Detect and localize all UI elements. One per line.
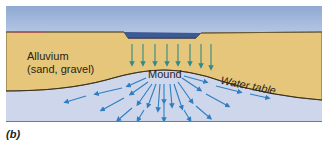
alluvium-label: Alluvium xyxy=(27,50,69,62)
panel-label: (b) xyxy=(6,128,20,140)
recharge-mound-diagram: Alluvium (sand, gravel) Mound Water tabl… xyxy=(6,6,322,122)
surface-water-pond xyxy=(124,32,201,38)
alluvium-subtitle-label: (sand, gravel) xyxy=(27,63,94,75)
mound-label: Mound xyxy=(148,68,182,80)
